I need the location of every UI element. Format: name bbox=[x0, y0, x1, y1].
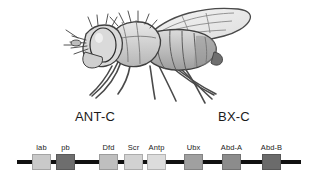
gene-box-pb[interactable] bbox=[56, 154, 75, 170]
gene-box-abd-b[interactable] bbox=[262, 154, 281, 170]
gene-box-ubx[interactable] bbox=[184, 154, 203, 170]
drosophila-fly-illustration: #e8e8e8 bbox=[0, 0, 317, 118]
fly-head bbox=[64, 14, 122, 68]
gene-track: lab pb Dfd Scr Antp Ubx Abd-A Abd-B bbox=[0, 126, 317, 170]
gene-label-scr: Scr bbox=[128, 144, 140, 152]
gene-box-dfd[interactable] bbox=[99, 154, 118, 170]
gene-label-ubx: Ubx bbox=[187, 144, 201, 152]
gene-label-abd-a: Abd-A bbox=[221, 144, 242, 152]
cluster-title-bxc: BX-C bbox=[218, 110, 250, 123]
gene-box-scr[interactable] bbox=[124, 154, 143, 170]
cluster-title-antc: ANT-C bbox=[75, 110, 115, 123]
gene-label-pb: pb bbox=[61, 144, 70, 152]
gene-label-dfd: Dfd bbox=[103, 144, 115, 152]
gene-box-lab[interactable] bbox=[32, 154, 51, 170]
gene-box-antp[interactable] bbox=[147, 154, 166, 170]
gene-box-abd-a[interactable] bbox=[222, 154, 241, 170]
gene-label-abd-b: Abd-B bbox=[261, 144, 282, 152]
gene-label-antp: Antp bbox=[149, 144, 165, 152]
hox-cluster-figure: #e8e8e8 bbox=[0, 0, 317, 170]
gene-label-lab: lab bbox=[36, 144, 46, 152]
